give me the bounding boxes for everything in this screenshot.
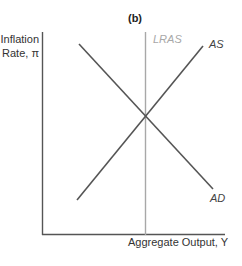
- as-curve: [77, 46, 203, 200]
- as-label: AS: [209, 38, 224, 50]
- x-axis-label: Aggregate Output, Y: [128, 236, 228, 248]
- diagram-canvas: [0, 0, 242, 266]
- lras-label: LRAS: [153, 33, 182, 45]
- ad-label: AD: [210, 192, 225, 204]
